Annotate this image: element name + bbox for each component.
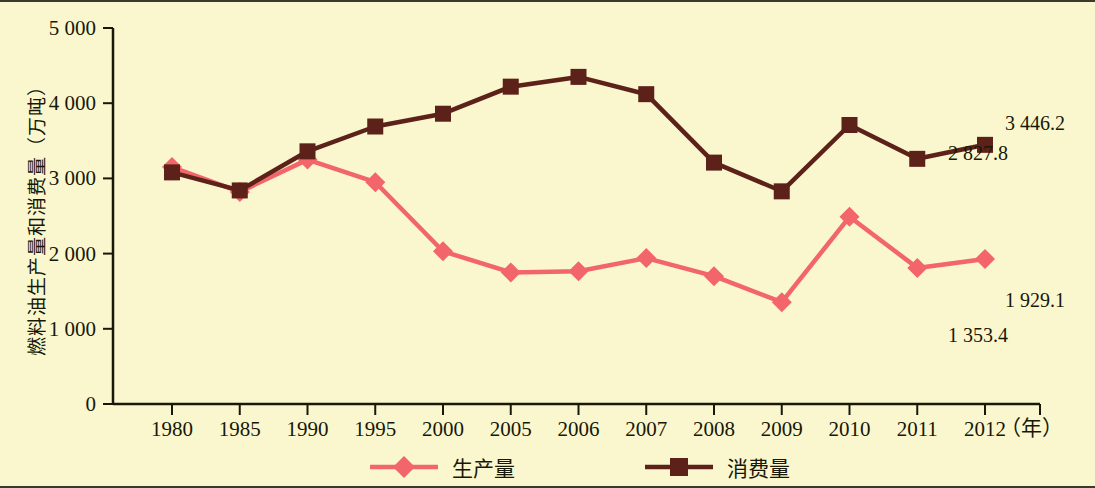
x-axis-tick-label: 2000: [422, 417, 464, 441]
x-axis-tick-label: 1995: [354, 417, 396, 441]
data-point-marker: [571, 69, 587, 85]
x-axis-tick-label: 1980: [151, 417, 193, 441]
series-consumption: [164, 69, 993, 199]
annotation-consumption-2009: 2 827.8: [948, 142, 1008, 164]
x-axis-tick-label: 2006: [558, 417, 600, 441]
y-axis-tick-label: 5 000: [49, 16, 96, 40]
data-point-marker: [909, 151, 925, 167]
legend-label: 消费量: [727, 457, 790, 481]
y-axis-tick-label: 2 000: [49, 242, 96, 266]
data-point-marker: [569, 261, 589, 281]
data-point-marker: [300, 143, 316, 159]
x-axis-tick-label: 1985: [219, 417, 261, 441]
y-axis-tick-labels: 01 0002 0003 0004 0005 000: [49, 16, 96, 416]
x-axis-tick-label: 2011: [897, 417, 938, 441]
data-annotations: 2 827.83 446.21 353.41 929.1: [948, 112, 1065, 346]
y-axis-ticks: [103, 28, 113, 404]
data-point-marker: [774, 183, 790, 199]
x-axis-tick-label: 2009: [761, 417, 803, 441]
x-axis-ticks: [172, 404, 1040, 415]
data-point-marker: [638, 86, 654, 102]
data-series-layer: [162, 69, 995, 312]
x-axis-tick-labels: 1980198519901995200020052006200720082009…: [151, 417, 1006, 441]
legend-swatch-marker: [393, 456, 415, 478]
annotation-production-2009: 1 353.4: [948, 324, 1008, 346]
chart-figure: 01 0002 0003 0004 0005 000 1980198519901…: [0, 0, 1095, 488]
y-axis-tick-label: 0: [86, 392, 97, 416]
data-point-marker: [975, 249, 995, 269]
x-axis-tick-label: 2008: [693, 417, 735, 441]
legend-item-consumption[interactable]: 消费量: [645, 457, 790, 481]
series-production: [162, 150, 995, 313]
legend-label: 生产量: [452, 457, 515, 481]
data-point-marker: [501, 262, 521, 282]
x-axis-tick-label: 2007: [625, 417, 667, 441]
chart-legend: 生产量消费量: [370, 456, 790, 481]
legend-swatch-marker: [670, 458, 688, 476]
data-point-marker: [704, 266, 724, 286]
series-line: [172, 77, 985, 191]
x-axis-tick-label: 2010: [829, 417, 871, 441]
x-axis-unit-label: （年）: [1000, 416, 1063, 440]
line-chart: 01 0002 0003 0004 0005 000 1980198519901…: [0, 2, 1095, 488]
annotation-consumption-2012: 3 446.2: [1005, 112, 1065, 134]
x-axis-tick-label: 1990: [287, 417, 329, 441]
y-axis-tick-label: 4 000: [49, 91, 96, 115]
data-point-marker: [367, 119, 383, 135]
legend-item-production[interactable]: 生产量: [370, 456, 515, 481]
annotation-production-2012: 1 929.1: [1005, 289, 1065, 311]
y-axis-title: 燃料油生产量和消费量（万吨）: [27, 76, 48, 356]
y-axis-tick-label: 1 000: [49, 317, 96, 341]
data-point-marker: [842, 117, 858, 133]
y-axis-tick-label: 3 000: [49, 166, 96, 190]
data-point-marker: [636, 248, 656, 268]
x-axis-tick-label: 2005: [490, 417, 532, 441]
data-point-marker: [232, 182, 248, 198]
data-point-marker: [164, 164, 180, 180]
data-point-marker: [706, 155, 722, 171]
data-point-marker: [503, 79, 519, 95]
data-point-marker: [435, 106, 451, 122]
